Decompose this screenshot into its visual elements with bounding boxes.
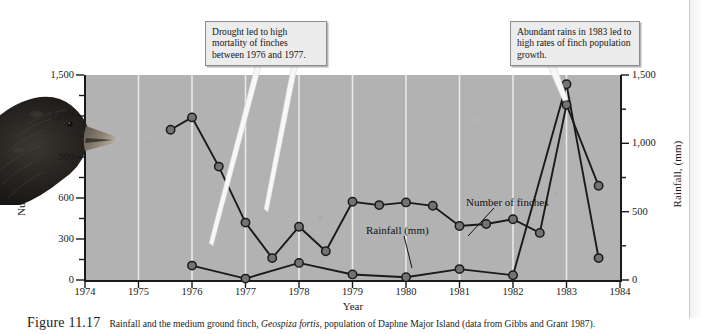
x-axis-title: Year xyxy=(303,300,403,312)
y-tick-left-600: 600 xyxy=(26,192,74,203)
y-axis-right xyxy=(620,75,622,281)
callout-rains: Abundant rains in 1983 led to high rates… xyxy=(510,21,640,66)
x-axis xyxy=(84,280,622,282)
y-tick-left-1200: 1,200 xyxy=(26,110,74,121)
caption-species-name: Geospiza fortis xyxy=(261,318,319,329)
x-tick-1978: 1978 xyxy=(276,286,322,298)
x-tick-1984: 1984 xyxy=(597,286,643,298)
figure-11-17: Number of finches Rainfall, (mm) Year xyxy=(0,0,703,318)
y-axis-left xyxy=(84,75,86,281)
x-tick-1982: 1982 xyxy=(490,286,536,298)
y-tick-left-300: 300 xyxy=(26,233,74,244)
x-tick-1983: 1983 xyxy=(544,286,590,298)
callout-drought: Drought led to high mortality of finches… xyxy=(205,21,327,66)
y-axis-left-ticks xyxy=(76,75,84,280)
y-axis-left-title: Number of finches xyxy=(15,109,27,239)
plot-area xyxy=(85,75,620,280)
figure-caption: Figure 11.17Rainfall and the medium grou… xyxy=(27,316,703,330)
series-label-rainfall: Rainfall (mm) xyxy=(366,224,429,236)
x-tick-1980: 1980 xyxy=(383,286,429,298)
y-axis-right-title: Rainfall, (mm) xyxy=(671,109,683,239)
x-tick-1976: 1976 xyxy=(169,286,215,298)
y-tick-right-0: 0 xyxy=(632,274,672,285)
caption-text-before: Rainfall and the medium ground finch, xyxy=(109,318,258,329)
x-tick-1979: 1979 xyxy=(330,286,376,298)
series-label-finches: Number of finches xyxy=(466,196,548,208)
y-tick-left-900: 900 xyxy=(26,151,74,162)
y-tick-right-500: 500 xyxy=(632,206,672,217)
x-tick-1975: 1975 xyxy=(116,286,162,298)
scan-noise xyxy=(85,75,620,280)
caption-text-after: , population of Daphne Major Island (dat… xyxy=(319,318,595,329)
y-tick-left-0: 0 xyxy=(26,274,74,285)
figure-number: Figure 11.17 xyxy=(27,316,100,330)
x-tick-1974: 1974 xyxy=(62,286,108,298)
x-tick-1977: 1977 xyxy=(223,286,269,298)
y-axis-right-ticks xyxy=(621,75,629,280)
y-tick-right-1000: 1,000 xyxy=(632,137,672,148)
y-tick-left-1500: 1,500 xyxy=(26,69,74,80)
y-tick-right-1500: 1,500 xyxy=(632,69,672,80)
x-tick-1981: 1981 xyxy=(437,286,483,298)
